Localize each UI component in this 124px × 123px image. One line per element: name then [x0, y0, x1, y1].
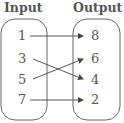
output-value: 4: [91, 73, 99, 86]
input-value: 3: [18, 52, 26, 65]
input-value: 1: [18, 29, 26, 42]
input-value: 7: [18, 93, 26, 106]
output-value: 2: [91, 93, 99, 106]
input-value: 5: [18, 73, 26, 86]
output-value: 8: [91, 29, 99, 42]
output-value: 6: [91, 52, 99, 65]
